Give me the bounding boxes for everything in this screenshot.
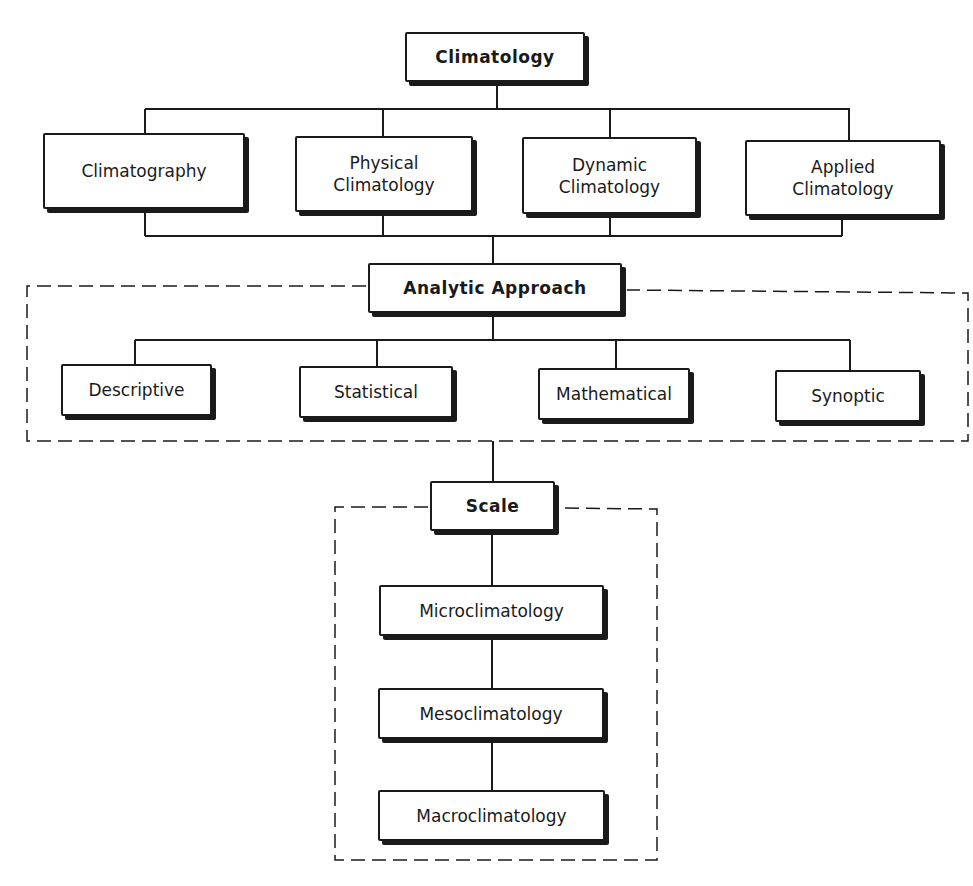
scale-node-mesoclimatology: Mesoclimatology bbox=[378, 688, 604, 739]
root-node-label: Climatology bbox=[435, 46, 554, 68]
scale-label: Scale bbox=[466, 495, 520, 517]
scale-node-label: Microclimatology bbox=[419, 600, 564, 622]
branch-node-physical-climatology: Physical Climatology bbox=[295, 136, 473, 212]
approach-node-label: Synoptic bbox=[811, 385, 885, 407]
scale-node: Scale bbox=[430, 481, 555, 531]
branch-node-climatography: Climatography bbox=[43, 133, 245, 209]
analytic-approach-node: Analytic Approach bbox=[368, 263, 622, 313]
scale-node-label: Mesoclimatology bbox=[419, 703, 562, 725]
approach-node-label: Mathematical bbox=[556, 383, 672, 405]
approach-node-synoptic: Synoptic bbox=[775, 370, 921, 422]
branch-node-applied-climatology: Applied Climatology bbox=[745, 140, 941, 216]
root-node-climatology: Climatology bbox=[405, 32, 585, 82]
branch-node-dynamic-climatology: Dynamic Climatology bbox=[522, 137, 697, 214]
branch-node-label: Applied Climatology bbox=[792, 156, 893, 200]
approach-node-label: Descriptive bbox=[88, 379, 184, 401]
approach-node-descriptive: Descriptive bbox=[61, 364, 212, 416]
branch-node-label: Dynamic Climatology bbox=[559, 154, 660, 198]
scale-node-macroclimatology: Macroclimatology bbox=[378, 790, 605, 841]
scale-node-label: Macroclimatology bbox=[416, 805, 566, 827]
approach-node-label: Statistical bbox=[334, 381, 418, 403]
approach-node-statistical: Statistical bbox=[299, 366, 453, 418]
branch-node-label: Climatography bbox=[81, 160, 206, 182]
analytic-approach-label: Analytic Approach bbox=[403, 277, 586, 299]
branch-node-label: Physical Climatology bbox=[333, 152, 434, 196]
approach-node-mathematical: Mathematical bbox=[538, 368, 690, 420]
scale-node-microclimatology: Microclimatology bbox=[379, 585, 604, 636]
